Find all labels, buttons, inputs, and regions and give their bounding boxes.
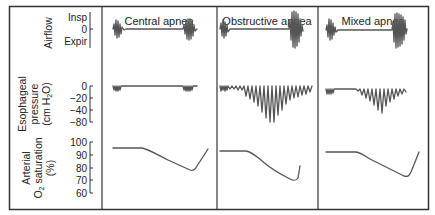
trace-central-saturation (113, 148, 208, 170)
trace-mixed-esophageal (326, 89, 406, 113)
trace-obstructive-esophageal (220, 86, 312, 122)
svg-text:Esophageal: Esophageal (16, 76, 28, 131)
esophageal-axis: 0 −20 −40 −80 (70, 81, 93, 128)
tick-esoph-40: −40 (70, 105, 87, 116)
tick-airflow-zero: 0 (81, 24, 87, 35)
tick-sat-70: 70 (76, 175, 88, 186)
tick-sat-60: 60 (76, 188, 88, 199)
tick-esoph-80: −80 (70, 117, 87, 128)
tick-sat-90: 90 (76, 150, 88, 161)
tick-esoph-0: 0 (81, 81, 87, 92)
trace-central-esophageal (113, 86, 197, 91)
row-label-airflow: Airflow (42, 17, 54, 49)
tick-airflow-insp: Insp (68, 12, 87, 23)
saturation-axis: 100 90 80 70 60 (70, 137, 93, 199)
tick-sat-100: 100 (70, 137, 87, 148)
svg-text:(%): (%) (44, 160, 56, 176)
trace-obstructive-saturation (220, 151, 300, 180)
svg-text:Arterial: Arterial (20, 151, 32, 184)
airflow-axis: Insp 0 Expir (64, 12, 93, 48)
tick-esoph-20: −20 (70, 93, 87, 104)
svg-text:(cm H2O): (cm H2O) (40, 82, 53, 126)
svg-text:pressure: pressure (28, 83, 40, 124)
row-label-esophageal: Esophageal pressure (cm H2O) (16, 76, 53, 131)
sleep-apnea-figure: Central apnea Obstructive apnea Mixed ap… (0, 0, 435, 215)
tick-airflow-expir: Expir (64, 36, 87, 47)
trace-mixed-saturation (326, 152, 419, 176)
tick-sat-80: 80 (76, 163, 88, 174)
row-label-saturation: Arterial O2 saturation (%) (20, 137, 56, 198)
